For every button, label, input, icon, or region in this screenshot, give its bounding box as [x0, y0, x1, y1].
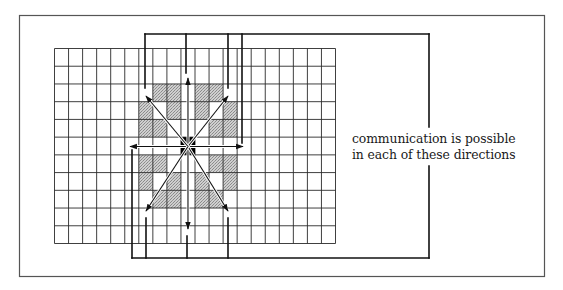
caption-line-2: in each of these directions — [352, 147, 512, 163]
shaded-cell — [223, 173, 237, 191]
caption-line-1: communication is possible — [352, 131, 512, 147]
shaded-cell — [139, 119, 153, 137]
shaded-cell — [223, 102, 237, 120]
shaded-cell — [223, 155, 237, 173]
shaded-cell — [195, 84, 209, 102]
shaded-cell — [195, 190, 209, 208]
shaded-cell — [209, 84, 223, 102]
shaded-cell — [209, 155, 223, 173]
shaded-cell — [195, 102, 209, 120]
shaded-cell — [223, 119, 237, 137]
caption-label: communication is possible in each of the… — [352, 131, 512, 163]
shaded-cell — [139, 102, 153, 120]
shaded-cell — [153, 155, 167, 173]
shaded-cell — [167, 102, 181, 120]
shaded-cell — [153, 84, 167, 102]
shaded-cell — [139, 155, 153, 173]
shaded-cell — [209, 119, 223, 137]
shaded-cell — [167, 84, 181, 102]
shaded-cell — [167, 190, 181, 208]
shaded-cell — [139, 173, 153, 191]
shaded-cell — [153, 119, 167, 137]
